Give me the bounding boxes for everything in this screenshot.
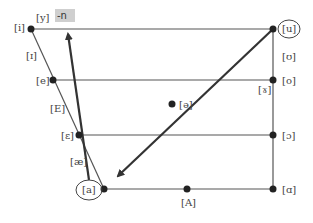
label-e: [e]	[36, 75, 50, 86]
label-n: -n	[57, 10, 67, 21]
dot-o	[270, 77, 277, 84]
dot-schwa	[169, 101, 176, 108]
label-i: [i]	[14, 22, 25, 33]
vowel-chart: [i] [y] -n [u] [ɪ] [ʊ] [e] [o] [ɤ] [E] […	[0, 0, 313, 223]
arrow-u-to-a	[118, 30, 272, 176]
dot-epsilon	[76, 132, 83, 139]
vowel-labels: [i] [y] -n [u] [ɪ] [ʊ] [e] [o] [ɤ] [E] […	[14, 10, 296, 208]
dot-open-o	[270, 132, 277, 139]
label-a: [a]	[82, 184, 96, 195]
dot-u	[270, 26, 277, 33]
dot-A	[184, 186, 191, 193]
label-E: [E]	[50, 103, 65, 114]
label-gamma: [ɤ]	[258, 84, 272, 95]
label-I: [ɪ]	[26, 50, 37, 61]
label-y: [y]	[36, 12, 50, 23]
label-schwa: [ə]	[179, 99, 193, 110]
label-ae: [æ]	[70, 156, 87, 167]
dot-e	[50, 77, 57, 84]
label-epsilon: [ɛ]	[61, 130, 74, 141]
chart-lines	[31, 29, 273, 189]
dot-i	[28, 26, 35, 33]
label-A: [A]	[181, 197, 196, 208]
dot-script-a	[270, 186, 277, 193]
label-o: [o]	[282, 75, 296, 86]
label-open-o: [ɔ]	[282, 130, 296, 141]
label-U: [ʊ]	[282, 51, 296, 62]
front-edge	[31, 29, 104, 189]
label-u: [u]	[282, 23, 296, 34]
label-script-a: [ɑ]	[282, 184, 296, 195]
